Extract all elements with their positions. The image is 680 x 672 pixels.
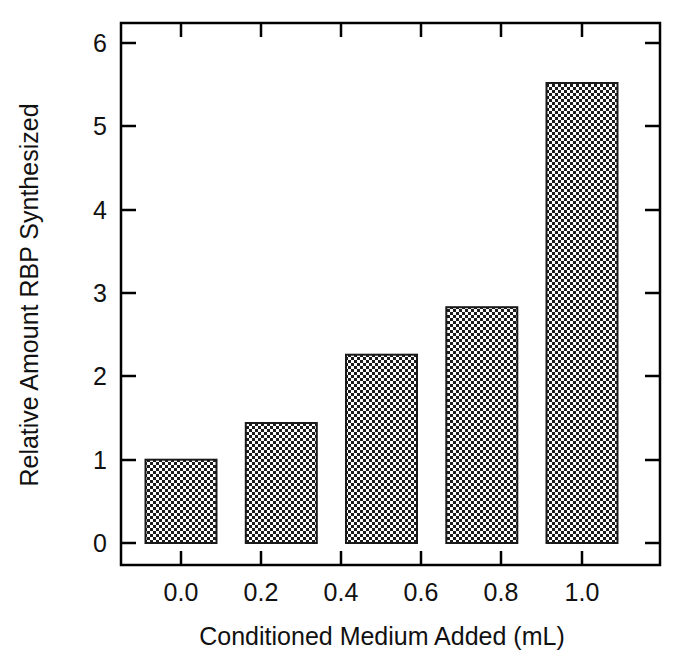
bar-rect bbox=[246, 423, 317, 543]
bar-rect bbox=[446, 307, 517, 543]
x-tick-label-1: 0.2 bbox=[244, 578, 279, 606]
x-axis-title: Conditioned Medium Added (mL) bbox=[199, 622, 564, 650]
bar-item-1 bbox=[246, 423, 317, 543]
x-tick-label-0: 0.0 bbox=[164, 578, 199, 606]
x-tick-label-5: 1.0 bbox=[565, 578, 600, 606]
y-tick-label-3: 3 bbox=[93, 279, 107, 307]
y-tick-label-4: 4 bbox=[93, 196, 107, 224]
bar-rect bbox=[547, 83, 618, 543]
bar-item-4 bbox=[547, 83, 618, 543]
bar-item-3 bbox=[446, 307, 517, 543]
bar-rect bbox=[146, 460, 217, 543]
y-tick-labels: 6 5 4 3 2 1 0 bbox=[93, 29, 107, 557]
bar-item-0 bbox=[146, 460, 217, 543]
bar-rect bbox=[346, 355, 417, 543]
y-tick-label-2: 2 bbox=[93, 362, 107, 390]
y-tick-label-1: 1 bbox=[93, 446, 107, 474]
bar-item-2 bbox=[346, 355, 417, 543]
x-tick-label-3: 0.6 bbox=[404, 578, 439, 606]
y-tick-label-5: 5 bbox=[93, 112, 107, 140]
chart-svg: 6 5 4 3 2 1 0 0.0 0.2 0.4 0.6 0.8 1.0 Co… bbox=[0, 0, 680, 672]
y-tick-label-0: 0 bbox=[93, 529, 107, 557]
x-tick-label-2: 0.4 bbox=[324, 578, 359, 606]
y-axis-title: Relative Amount RBP Synthesized bbox=[15, 103, 43, 486]
bar-chart-figure: 6 5 4 3 2 1 0 0.0 0.2 0.4 0.6 0.8 1.0 Co… bbox=[0, 0, 680, 672]
x-tick-label-4: 0.8 bbox=[484, 578, 519, 606]
x-tick-labels: 0.0 0.2 0.4 0.6 0.8 1.0 bbox=[164, 578, 600, 606]
y-tick-label-6: 6 bbox=[93, 29, 107, 57]
